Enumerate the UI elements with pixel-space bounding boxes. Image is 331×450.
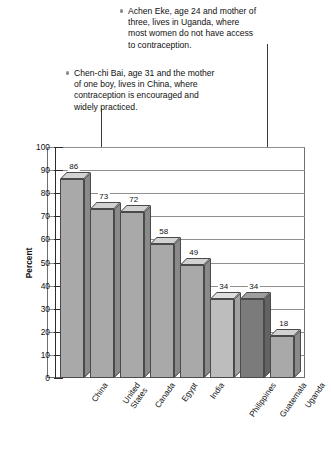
annotation-line: Achen Eke, age 24 and mother of (128, 6, 325, 17)
plot-area: 0102030405060708090100 8673725849343418 (47, 147, 305, 378)
bar-face (210, 299, 234, 378)
bar-guatemala: 34 (240, 299, 264, 378)
bar-side-face (294, 330, 301, 378)
y-tick-label: 0 (45, 373, 50, 383)
bar-philippines: 34 (210, 299, 234, 378)
bar-chart: Percent 0102030405060708090100 867372584… (0, 138, 331, 388)
y-tick-label: 90 (41, 165, 50, 175)
bar-value-label: 72 (128, 195, 140, 204)
x-label-philippines: Philippines (248, 381, 278, 419)
bar-united-states: 73 (90, 209, 114, 378)
bar-china: 86 (60, 179, 84, 378)
y-tick-label: 60 (41, 234, 50, 244)
y-tick-label: 20 (41, 327, 50, 337)
bar-value-label: 49 (188, 248, 200, 257)
bar-face (150, 244, 174, 378)
y-tick-label: 70 (41, 211, 50, 221)
y-axis-title: Percent (24, 248, 34, 279)
round-bullet-icon (120, 9, 123, 12)
y-tick-label: 30 (41, 304, 50, 314)
y-tick-label: 40 (41, 281, 50, 291)
annotation-line: Chen-chi Bai, age 31 and the mother (74, 68, 281, 79)
bar-uganda: 18 (270, 336, 294, 378)
annotation-line: of one boy, lives in China, where (74, 79, 281, 90)
bar-face (60, 179, 84, 378)
annotation-line: most women do not have access (128, 28, 325, 39)
annotation-line: to contraception. (128, 40, 325, 51)
bar-egypt: 58 (150, 244, 174, 378)
x-label-united-states: UnitedStates (121, 381, 150, 411)
x-label-egypt: Egypt (180, 381, 200, 403)
bar-india: 49 (180, 265, 204, 378)
bar-face (120, 212, 144, 378)
round-bullet-icon (66, 71, 69, 74)
bar-face (180, 265, 204, 378)
bar-canada: 72 (120, 212, 144, 378)
bar-value-label: 34 (248, 282, 260, 291)
y-tick-label: 50 (41, 258, 50, 268)
x-axis-labels: ChinaUnitedStatesCanadaEgyptIndiaPhilipp… (55, 381, 313, 441)
y-tick-label: 100 (36, 142, 50, 152)
bar-face (240, 299, 264, 378)
x-label-india: India (209, 381, 227, 401)
annotation-line: three, lives in Uganda, where (128, 17, 325, 28)
bar-face (270, 336, 294, 378)
bar-value-label: 86 (68, 162, 80, 171)
annotation-line: widely practiced. (74, 102, 281, 113)
y-tick-label: 80 (41, 188, 50, 198)
bar-value-label: 34 (218, 282, 230, 291)
bar-series: 8673725849343418 (55, 147, 305, 378)
annotation-china: Chen-chi Bai, age 31 and the mother of o… (66, 68, 281, 113)
annotation-line: contraception is encouraged and (74, 90, 281, 101)
bar-value-label: 73 (98, 192, 110, 201)
annotation-uganda: Achen Eke, age 24 and mother of three, l… (120, 6, 325, 51)
bar-value-label: 18 (278, 319, 290, 328)
x-label-guatemala: Guatemala (278, 381, 309, 419)
y-tick-label: 10 (41, 350, 50, 360)
bar-face (90, 209, 114, 378)
x-label-china: China (90, 381, 110, 404)
x-label-canada: Canada (153, 381, 177, 410)
bar-value-label: 58 (158, 227, 170, 236)
y-tick (54, 378, 63, 379)
